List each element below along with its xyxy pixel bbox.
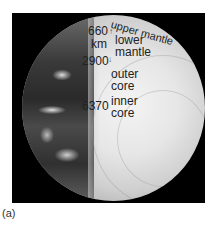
depth-6370: 6370 (82, 100, 109, 112)
label-lower-mantle-line2: mantle (115, 46, 151, 58)
depth-660: 660 (88, 25, 108, 37)
depth-660-unit: km (91, 38, 107, 50)
label-inner-core-line2: core (111, 107, 134, 119)
figure-caption: (a) (2, 207, 15, 219)
arrow-down-icon: ↓ (108, 55, 112, 64)
label-outer-core-line2: core (111, 80, 134, 92)
depth-2900: 2900 (82, 55, 109, 67)
